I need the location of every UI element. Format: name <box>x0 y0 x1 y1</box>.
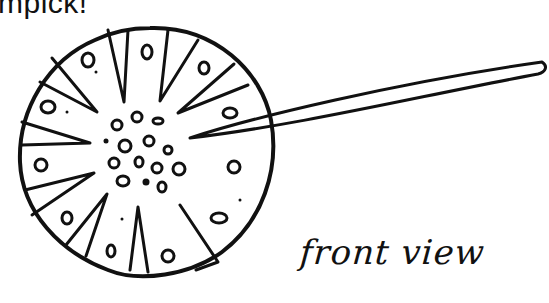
outer-holes <box>35 45 240 262</box>
toothpick <box>190 62 545 138</box>
front-view-label: front view <box>299 232 487 272</box>
